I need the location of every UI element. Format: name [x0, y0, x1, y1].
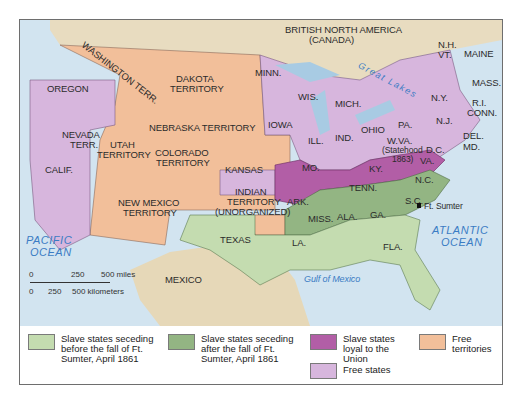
label-vt: VT.	[438, 50, 451, 60]
label-iowa: IOWA	[268, 120, 293, 130]
fort-marker-icon	[417, 203, 421, 208]
label-calif: CALIF.	[45, 165, 73, 175]
label-mexico: MEXICO	[165, 275, 202, 285]
label-mich: MICH.	[335, 99, 361, 109]
legend-label: Free states	[343, 363, 443, 375]
legend-item-loyal: Slave states loyal to the Union	[310, 334, 413, 364]
map-frame: BRITISH NORTH AMERICA (CANADA) Great Lak…	[19, 19, 503, 327]
scale-km-0: 0	[29, 287, 33, 296]
legend-swatch	[168, 334, 195, 350]
label-new-mexico-territory: TERRITORY	[123, 208, 177, 218]
label-utah-territory: TERRITORY	[97, 150, 151, 160]
label-minn: MINN.	[255, 68, 281, 78]
label-la: LA.	[292, 238, 306, 248]
label-unorganized: (UNORGANIZED)	[215, 207, 290, 217]
label-atlantic: ATLANTIC	[432, 224, 488, 236]
label-nc: N.C.	[415, 175, 434, 185]
label-ft-sumter: Ft. Sumter	[424, 201, 463, 211]
label-colorado-territory: TERRITORY	[156, 158, 210, 168]
legend-item-free-states: Free states	[310, 363, 443, 379]
label-canada: (CANADA)	[309, 35, 354, 45]
label-miss: MISS.	[308, 214, 333, 224]
label-kansas: KANSAS	[225, 165, 263, 175]
label-del: DEL.	[463, 131, 484, 141]
label-ny: N.Y.	[431, 93, 448, 103]
label-nevada-terr: TERR.	[70, 140, 98, 150]
label-ind: IND.	[335, 133, 354, 143]
label-mass: MASS.	[472, 78, 501, 88]
label-pacific: PACIFIC	[26, 234, 72, 246]
scale-miles-250: 250	[71, 270, 84, 279]
label-dakota-territory: TERRITORY	[170, 84, 224, 94]
label-mo: MO.	[302, 163, 320, 173]
label-ill: ILL.	[308, 136, 323, 146]
label-maine: MAINE	[464, 49, 494, 59]
legend-swatch	[310, 363, 337, 379]
legend-label: Slave states loyal to the Union	[343, 334, 413, 364]
legend-label: Slave states seceding before the fall of…	[61, 334, 161, 364]
label-va: VA.	[420, 156, 434, 166]
label-dc: D.C.	[426, 145, 445, 155]
scale-miles-0: 0	[29, 270, 33, 279]
scale-km-500: 500 kilometers	[72, 287, 124, 296]
label-tenn: TENN.	[349, 183, 377, 193]
label-nj: N.J.	[436, 116, 453, 126]
legend-label: Slave states seceding after the fall of …	[201, 334, 301, 364]
label-nebraska: NEBRASKA TERRITORY	[149, 123, 255, 133]
legend-swatch	[28, 334, 55, 350]
label-ark: ARK.	[287, 197, 309, 207]
label-md: MD.	[463, 142, 480, 152]
label-wis: WIS.	[298, 92, 318, 102]
label-atlantic-ocean: OCEAN	[441, 236, 483, 248]
legend-swatch	[310, 334, 337, 350]
label-ohio: OHIO	[361, 125, 385, 135]
legend-label: Free territories	[452, 334, 502, 354]
label-wva-year: 1863)	[392, 154, 413, 164]
map-legend: Slave states seceding before the fall of…	[19, 326, 503, 385]
label-pacific-ocean: OCEAN	[30, 246, 72, 258]
label-conn: CONN.	[467, 108, 497, 118]
label-texas: TEXAS	[220, 235, 251, 245]
label-ky: KY.	[369, 164, 383, 174]
scale-bar	[30, 282, 110, 283]
label-fla: FLA.	[383, 242, 403, 252]
label-gulf-of-mexico: Gulf of Mexico	[304, 274, 360, 284]
legend-item-free-territories: Free territories	[419, 334, 502, 354]
legend-swatch	[419, 334, 446, 350]
legend-item-seceding-before: Slave states seceding before the fall of…	[28, 334, 161, 364]
scale-km-250: 250	[48, 287, 61, 296]
label-oregon: OREGON	[47, 84, 89, 94]
scale-miles-500: 500 miles	[101, 270, 135, 279]
legend-item-seceding-after: Slave states seceding after the fall of …	[168, 334, 301, 364]
label-pa: PA.	[398, 120, 412, 130]
label-ala: ALA.	[337, 212, 357, 222]
label-ga: GA.	[370, 210, 386, 220]
